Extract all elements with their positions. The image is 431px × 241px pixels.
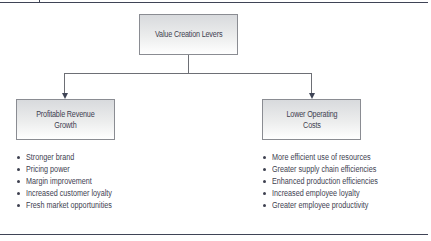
- list-item: Stronger brand: [16, 151, 127, 163]
- root-connector-vertical: [188, 55, 189, 74]
- right-connector-vertical: [311, 73, 312, 94]
- list-item: Increased employee loyalty: [262, 187, 397, 199]
- branch-node-label-line: Lower Operating: [286, 109, 337, 120]
- operating-costs-list: More efficient use of resources Greater …: [262, 151, 397, 211]
- branch-node-lower-operating-costs: Lower Operating Costs: [262, 99, 361, 140]
- bottom-rule: [0, 234, 428, 235]
- branch-node-label-line: Costs: [286, 120, 337, 131]
- branch-connector-horizontal: [64, 73, 312, 74]
- branch-node-profitable-revenue-growth: Profitable Revenue Growth: [16, 99, 115, 140]
- revenue-growth-list: Stronger brand Pricing power Margin impr…: [16, 151, 127, 211]
- list-item: Greater supply chain efficiencies: [262, 163, 397, 175]
- left-connector-vertical: [64, 73, 65, 94]
- branch-node-label-line: Profitable Revenue: [36, 109, 94, 120]
- list-item: Greater employee productivity: [262, 199, 397, 211]
- list-item: Pricing power: [16, 163, 127, 175]
- top-rule-tick: [39, 0, 40, 3]
- top-rule: [0, 2, 428, 3]
- branch-node-label-line: Growth: [36, 120, 94, 131]
- list-item: Margin improvement: [16, 175, 127, 187]
- root-node-label: Value Creation Levers: [155, 29, 222, 40]
- list-item: Increased customer loyalty: [16, 187, 127, 199]
- list-item: Enhanced production efficiencies: [262, 175, 397, 187]
- root-node-value-creation-levers: Value Creation Levers: [139, 14, 238, 55]
- list-item: More efficient use of resources: [262, 151, 397, 163]
- list-item: Fresh market opportunities: [16, 199, 127, 211]
